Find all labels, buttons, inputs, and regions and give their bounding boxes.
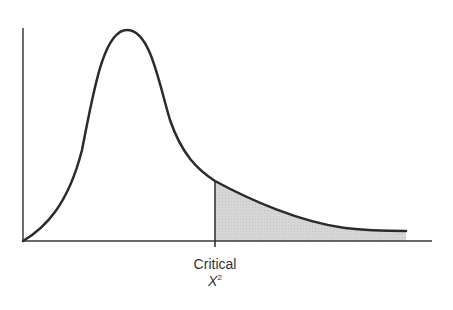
shaded-tail-region (215, 181, 406, 241)
chi-square-symbol: X2 (165, 273, 265, 289)
critical-label: Critical (165, 256, 265, 272)
